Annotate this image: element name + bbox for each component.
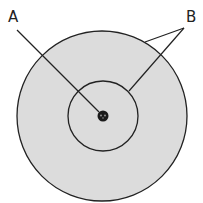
nucleus (98, 111, 109, 122)
label-b: B (186, 10, 196, 25)
label-a: A (8, 10, 18, 25)
atom-diagram (0, 0, 203, 203)
